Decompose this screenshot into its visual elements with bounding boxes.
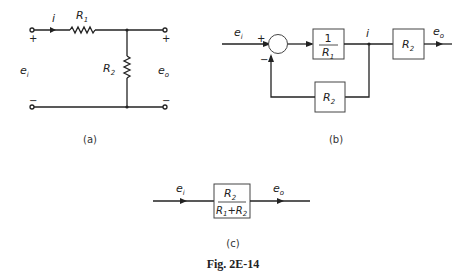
input-voltage-label: ei [20,64,29,79]
r2-label: R2 [103,62,116,77]
current-label: i [52,12,55,25]
input-minus-sign: − [29,95,37,106]
input-signal-label: ei [234,26,243,41]
figure-caption: Fig. 2E-14 [207,257,260,271]
output-signal-label: eo [433,25,444,40]
figure-canvas: i R1 R2 ei eo + + − − (a) ei + − 1 R1 i … [0,0,474,280]
panel-a-caption: (a) [83,134,97,145]
resistor-r1-icon [70,27,95,33]
output-terminal-top [163,28,167,32]
panel-a-circuit: i R1 R2 ei eo + + − − (a) [20,9,170,145]
summing-junction [269,35,288,54]
panel-c-caption: (c) [226,238,239,249]
input-signal-label: ei [176,182,185,197]
panel-c-simplified-block: ei eo R2 R1+R2 (c) [153,182,310,249]
sum-plus-sign: + [257,33,265,44]
output-minus-sign: − [162,95,170,106]
output-arrow-icon [277,198,284,204]
current-label: i [366,27,369,40]
forward-block-numerator: 1 [325,32,332,45]
current-arrow-icon [50,27,56,33]
resistor-r2-icon [124,56,130,78]
panel-b-block-diagram: ei + − 1 R1 i R2 R2 eo (b) [222,25,452,145]
output-voltage-label: eo [158,64,169,79]
input-terminal-top [30,28,34,32]
output-plus-sign: + [162,33,170,44]
panel-b-caption: (b) [329,134,343,145]
output-signal-label: eo [273,182,284,197]
sum-minus-sign: − [260,54,268,65]
output-arrow-icon [436,41,443,47]
input-arrow-icon [180,198,187,204]
input-plus-sign: + [29,33,37,44]
r1-label: R1 [76,9,88,24]
